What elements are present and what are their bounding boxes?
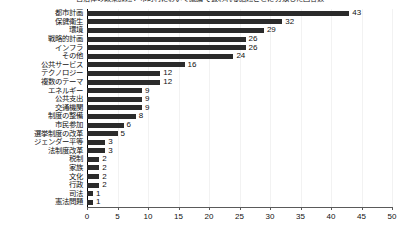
bar (87, 148, 105, 153)
x-tick-label: 15 (174, 212, 183, 222)
bar-row: 税制2 (87, 155, 392, 164)
bar-value-label: 2 (102, 181, 106, 189)
bar-value-label: 3 (108, 147, 112, 155)
bar-value-label: 6 (127, 121, 131, 129)
bar (87, 131, 118, 136)
bar (87, 11, 349, 16)
bar-value-label: 1 (96, 198, 100, 206)
bar (87, 191, 93, 196)
x-tick-mark (331, 207, 332, 210)
x-axis-ticks: 05101520253035404550 (87, 207, 392, 229)
bar-row: 都市計画43 (87, 9, 392, 18)
chart-title: 自治体の政策課題：市町村において議論で扱われる話題ごとに分類した回答数 (0, 0, 400, 3)
x-tick-mark (87, 207, 88, 210)
bar-row: 憲法問題1 (87, 198, 392, 207)
bar (87, 37, 246, 42)
x-tick-mark (209, 207, 210, 210)
bar-row: 環境29 (87, 26, 392, 35)
x-tick-mark (179, 207, 180, 210)
bar (87, 174, 99, 179)
bar-value-label: 5 (121, 130, 125, 138)
bar-row: 選挙制度の改革5 (87, 129, 392, 138)
bar-value-label: 9 (145, 104, 149, 112)
bar-value-label: 24 (236, 52, 245, 60)
bar (87, 105, 142, 110)
bar-row: 公共サービス16 (87, 61, 392, 70)
bar (87, 54, 233, 59)
bar-row: 司法1 (87, 189, 392, 198)
bar-chart: 自治体の政策課題：市町村において議論で扱われる話題ごとに分類した回答数 都市計画… (0, 0, 400, 230)
x-tick-label: 50 (388, 212, 397, 222)
bar (87, 28, 264, 33)
bar-row: 公共支出9 (87, 95, 392, 104)
bar (87, 45, 246, 50)
x-tick-label: 25 (235, 212, 244, 222)
plot-area: 都市計画43保健衛生32環境29戦略的計画26インフラ26その他24公共サービス… (87, 9, 392, 207)
x-tick-label: 10 (144, 212, 153, 222)
x-tick-mark (270, 207, 271, 210)
bar-row: 制度の整備8 (87, 112, 392, 121)
bar (87, 88, 142, 93)
bar-value-label: 43 (352, 9, 361, 17)
bar-value-label: 8 (139, 112, 143, 120)
x-tick-mark (362, 207, 363, 210)
bar (87, 114, 136, 119)
bar (87, 80, 160, 85)
x-tick-label: 30 (266, 212, 275, 222)
bar-row: 交通機関9 (87, 104, 392, 113)
bar-row: その他24 (87, 52, 392, 61)
bar (87, 140, 105, 145)
bar-value-label: 12 (163, 78, 172, 86)
bar (87, 19, 282, 24)
bar-value-label: 26 (249, 35, 258, 43)
bar-row: 市民参加6 (87, 121, 392, 130)
bar-value-label: 2 (102, 164, 106, 172)
bar (87, 97, 142, 102)
bar-row: 家族2 (87, 164, 392, 173)
bar-row: ジェンダー平等3 (87, 138, 392, 147)
bar-value-label: 26 (249, 44, 258, 52)
bar-value-label: 29 (267, 26, 276, 34)
x-tick-label: 40 (327, 212, 336, 222)
bar-row: 戦略的計画26 (87, 35, 392, 44)
category-label: 憲法問題 (55, 198, 83, 206)
x-tick-mark (240, 207, 241, 210)
bar (87, 200, 93, 205)
bar (87, 123, 124, 128)
bar-row: テクノロジー12 (87, 69, 392, 78)
bar (87, 165, 99, 170)
bar (87, 183, 99, 188)
bar (87, 62, 185, 67)
x-tick-label: 35 (296, 212, 305, 222)
x-tick-mark (301, 207, 302, 210)
x-tick-label: 20 (205, 212, 214, 222)
bar-row: 複数のテーマ12 (87, 78, 392, 87)
bar-row: 行政2 (87, 181, 392, 190)
bar-row: 保健衛生32 (87, 18, 392, 27)
gridline (392, 9, 393, 207)
bar-value-label: 32 (285, 18, 294, 26)
bar-value-label: 16 (188, 61, 197, 69)
x-tick-mark (392, 207, 393, 210)
bar-value-label: 3 (108, 138, 112, 146)
bar-row: エネルギー9 (87, 86, 392, 95)
bar (87, 71, 160, 76)
bar (87, 157, 99, 162)
x-tick-label: 0 (85, 212, 89, 222)
bar-row: 文化2 (87, 172, 392, 181)
x-tick-label: 5 (115, 212, 119, 222)
x-tick-mark (148, 207, 149, 210)
x-tick-label: 45 (357, 212, 366, 222)
bar-row: 法制度改革3 (87, 147, 392, 156)
x-tick-mark (118, 207, 119, 210)
